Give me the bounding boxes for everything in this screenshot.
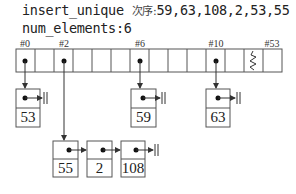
null-terminator-icon [162,92,165,104]
node-value-63: 63 [206,109,230,126]
node-value-2: 2 [87,160,112,177]
break-zigzag-icon [250,51,256,70]
null-terminator-icon [155,144,158,156]
bucket-array [16,49,282,72]
node-value-108: 108 [121,160,145,177]
node-value-59: 59 [131,109,156,126]
null-terminator-icon [237,92,240,104]
node-value-53: 53 [16,109,40,126]
null-terminator-icon [44,92,47,104]
node-value-55: 55 [53,160,78,177]
hashtable-diagram [0,0,296,194]
